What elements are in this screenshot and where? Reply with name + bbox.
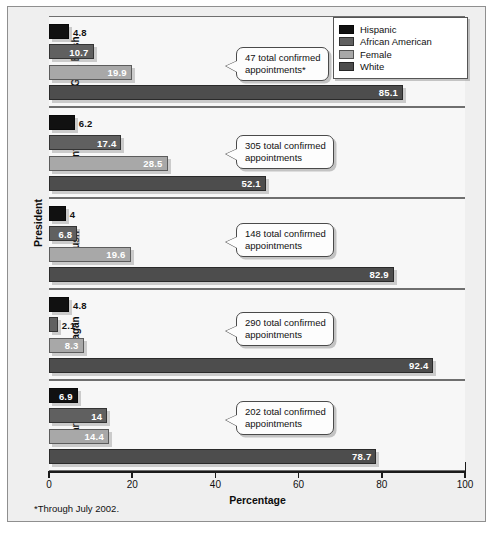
legend-item[interactable]: Hispanic [339, 24, 462, 35]
legend-swatch-icon [339, 37, 354, 46]
bar-rect: 10.7 [49, 44, 94, 59]
callout-reagan: 290 total confirmed appointments [236, 312, 334, 346]
bar-value-label: 52.1 [241, 178, 260, 189]
bar-value-label: 6.9 [59, 390, 73, 401]
bar-hispanic[interactable]: 6.2 [49, 115, 465, 130]
x-axis-tick [381, 471, 383, 478]
bar-white[interactable]: 85.1 [49, 85, 465, 100]
bar-rect: 28.5 [49, 156, 168, 171]
legend-label: Hispanic [360, 24, 396, 35]
callout-text: 290 total confirmed appointments [245, 317, 326, 340]
bar-value-label: 19.9 [107, 67, 126, 78]
legend-item[interactable]: Female [339, 49, 462, 60]
callout-tail-icon [226, 149, 237, 160]
chart-legend: HispanicAfrican AmericanFemaleWhite [333, 17, 468, 79]
bar-rect: 6.9 [49, 388, 78, 403]
x-axis-tick-label: 80 [376, 479, 387, 490]
bar-value-label: 4.8 [73, 299, 87, 310]
callout-tail-icon [226, 61, 237, 72]
legend-item[interactable]: African American [339, 36, 462, 47]
bar-value-label: 14.4 [85, 431, 104, 442]
bar-value-label: 78.7 [352, 451, 371, 462]
bar-value-label: 2.1 [62, 319, 76, 330]
bar-rect: 6.8 [49, 226, 77, 241]
legend-label: African American [360, 36, 432, 47]
legend-swatch-icon [339, 25, 354, 34]
x-axis-tick-label: 40 [210, 479, 221, 490]
bar-rect: 19.9 [49, 65, 132, 80]
bar-rect: 17.4 [49, 135, 121, 150]
bar-value-label: 10.7 [69, 46, 88, 57]
x-axis-line [49, 471, 466, 473]
bar-rect [49, 115, 75, 130]
bar-rect: 8.3 [49, 338, 84, 353]
bar-value-label: 14 [91, 410, 102, 421]
legend-item[interactable]: White [339, 61, 462, 72]
bar-rect [49, 24, 69, 39]
bar-value-label: 85.1 [379, 87, 398, 98]
callout-text: 148 total confirmed appointments [245, 228, 326, 251]
bar-value-label: 82.9 [370, 269, 389, 280]
bar-white[interactable]: 52.1 [49, 176, 465, 191]
bar-rect [49, 317, 58, 332]
x-axis-tick-label: 0 [46, 479, 52, 490]
bar-rect: 78.7 [49, 449, 376, 464]
bar-value-label: 8.3 [65, 340, 79, 351]
bar-hispanic[interactable]: 4 [49, 206, 465, 221]
bar-value-label: 92.4 [409, 360, 428, 371]
legend-label: White [360, 61, 384, 72]
bar-white[interactable]: 78.7 [49, 449, 465, 464]
chart-footnote: *Through July 2002. [34, 503, 119, 514]
bar-hispanic[interactable]: 4.8 [49, 297, 465, 312]
callout-text: 305 total confirmed appointments [245, 140, 326, 163]
x-axis-tick [298, 471, 300, 478]
bar-rect: 52.1 [49, 176, 266, 191]
bar-rect: 14.4 [49, 429, 109, 444]
chart-figure: G.W. Bush4.810.719.985.1Clinton6.217.428… [7, 6, 486, 522]
legend-label: Female [360, 49, 392, 60]
bar-value-label: 19.6 [106, 249, 125, 260]
legend-swatch-icon [339, 50, 354, 59]
callout-tail-icon [226, 326, 237, 337]
x-axis-tick-label: 60 [293, 479, 304, 490]
callout-tail-icon [226, 237, 237, 248]
callout-carter: 202 total confirmed appointments [236, 401, 334, 435]
bar-rect: 85.1 [49, 85, 403, 100]
bar-rect: 19.6 [49, 247, 131, 262]
bar-rect: 92.4 [49, 358, 433, 373]
bar-rect [49, 206, 66, 221]
x-axis-tick-label: 20 [127, 479, 138, 490]
callout-clinton: 305 total confirmed appointments [236, 135, 334, 169]
callout-text: 47 total confirmed appointments* [245, 52, 321, 75]
callout-text: 202 total confirmed appointments [245, 406, 326, 429]
bar-rect [49, 297, 69, 312]
callout-bush: 148 total confirmed appointments [236, 223, 334, 257]
bar-value-label: 4.8 [73, 26, 87, 37]
x-axis-tick [48, 471, 50, 478]
bar-value-label: 17.4 [97, 137, 116, 148]
x-axis-tick [464, 471, 466, 478]
legend-swatch-icon [339, 62, 354, 71]
bar-rect: 14 [49, 408, 107, 423]
bar-value-label: 6.2 [79, 117, 93, 128]
bar-value-label: 28.5 [143, 158, 162, 169]
bar-value-label: 6.8 [58, 228, 72, 239]
bar-rect: 82.9 [49, 267, 394, 282]
bar-value-label: 4 [70, 208, 75, 219]
callout-tail-icon [226, 415, 237, 426]
callout-g-w-bush: 47 total confirmed appointments* [236, 47, 329, 81]
x-axis-tick-label: 100 [457, 479, 474, 490]
x-axis-tick [215, 471, 217, 478]
y-axis-title: President [32, 163, 44, 283]
bar-white[interactable]: 92.4 [49, 358, 465, 373]
x-axis-tick [131, 471, 133, 478]
bar-white[interactable]: 82.9 [49, 267, 465, 282]
